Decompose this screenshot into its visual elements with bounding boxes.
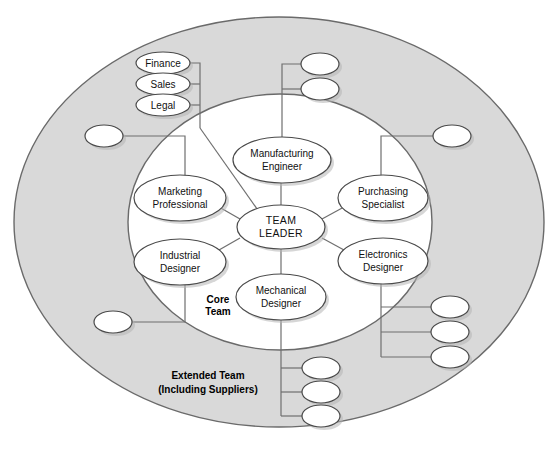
node-label-purchasing-specialist-line2: Specialist [362,199,405,210]
node-outline-supplier-right-1[interactable] [433,125,471,147]
node-label-sales: Sales [150,79,175,90]
node-outline-supplier-left-1[interactable] [85,125,123,147]
node-outline-supplier-right-4[interactable] [431,346,469,368]
extended-team-label-line2: (Including Suppliers) [158,384,257,395]
node-label-marketing-professional-line2: Professional [152,199,207,210]
node-label-industrial-designer-line2: Designer [160,263,201,274]
node-label-mechanical-designer-line1: Mechanical [256,285,307,296]
node-label-electronics-designer-line2: Designer [363,262,404,273]
node-label-finance: Finance [145,58,181,69]
team-structure-diagram: FinanceSalesLegal TEAMLEADERManufacturin… [0,0,558,450]
node-outline-supplier-bottom-2[interactable] [302,381,340,403]
node-outline-supplier-right-3[interactable] [431,321,469,343]
node-label-purchasing-specialist-line1: Purchasing [358,186,408,197]
node-label-industrial-designer-line1: Industrial [160,250,201,261]
core-team-zone-label: Core Team [205,294,230,317]
node-outline-supplier-bottom-3[interactable] [302,405,340,427]
node-label-electronics-designer-line1: Electronics [359,249,408,260]
extended-team-label-line1: Extended Team [171,370,244,381]
node-outline-supplier-top-1[interactable] [301,53,339,75]
node-label-manufacturing-engineer-line1: Manufacturing [250,148,313,159]
core-team-label-line2: Team [205,306,230,317]
node-label-manufacturing-engineer-line2: Engineer [262,161,303,172]
node-outline-supplier-left-2[interactable] [94,311,132,333]
support-function-nodes: FinanceSalesLegal [136,52,193,119]
node-outline-supplier-top-2[interactable] [301,78,339,100]
core-team-label-line1: Core [207,294,230,305]
node-label-team-leader-line1: TEAM [266,214,296,226]
node-label-mechanical-designer-line2: Designer [261,298,302,309]
node-outline-supplier-right-2[interactable] [431,296,469,318]
node-label-marketing-professional-line1: Marketing [158,186,202,197]
node-label-team-leader-line2: LEADER [259,227,303,239]
node-outline-supplier-bottom-1[interactable] [302,357,340,379]
diagram-canvas: FinanceSalesLegal TEAMLEADERManufacturin… [0,0,558,450]
node-label-legal: Legal [151,100,175,111]
